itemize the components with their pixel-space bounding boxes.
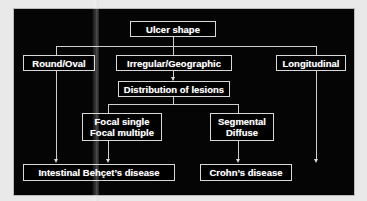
node-irregular-geographic-line-0: Irregular/Geographic [127, 58, 221, 69]
edge-to-irregular [173, 46, 174, 55]
flowchart-panel: Ulcer shape Round/Oval Irregular/Geograp… [14, 9, 354, 195]
arrowhead-segmental-to-crohn [236, 159, 240, 163]
node-ulcer-shape[interactable]: Ulcer shape [130, 21, 216, 37]
arrowhead-longitudinal-to-crohn [314, 159, 318, 163]
diagram-screenshot: Ulcer shape Round/Oval Irregular/Geograp… [0, 0, 367, 201]
node-focal[interactable]: Focal single Focal multiple [82, 113, 162, 141]
node-irregular-geographic[interactable]: Irregular/Geographic [116, 55, 232, 71]
node-intestinal-behcets-disease[interactable]: Intestinal Behçet’s disease [23, 164, 175, 181]
node-distribution-of-lesions-line-0: Distribution of lesions [124, 84, 224, 95]
arrowhead-focal-to-behcet [106, 159, 110, 163]
node-segmental-line-0: Segmental [218, 116, 266, 127]
edge-level2-bar [108, 104, 238, 105]
node-crohns-disease-line-0: Crohn’s disease [209, 167, 282, 178]
node-round-oval-line-0: Round/Oval [32, 58, 85, 69]
arrowhead-round-oval-to-behcet [54, 159, 58, 163]
node-segmental-line-1: Diffuse [226, 127, 258, 138]
node-round-oval[interactable]: Round/Oval [23, 55, 95, 71]
node-crohns-disease[interactable]: Crohn’s disease [200, 164, 292, 181]
node-segmental[interactable]: Segmental Diffuse [210, 113, 274, 141]
edge-to-round-oval [56, 46, 57, 55]
edge-to-longitudinal [316, 46, 317, 55]
node-ulcer-shape-line-0: Ulcer shape [146, 24, 200, 35]
node-focal-line-1: Focal multiple [90, 127, 154, 138]
node-focal-line-0: Focal single [95, 116, 150, 127]
node-distribution-of-lesions[interactable]: Distribution of lesions [118, 81, 230, 97]
node-longitudinal[interactable]: Longitudinal [276, 55, 346, 71]
edge-ulcer-stem [173, 37, 174, 46]
node-intestinal-behcets-disease-line-0: Intestinal Behçet’s disease [38, 167, 159, 178]
node-longitudinal-line-0: Longitudinal [283, 58, 340, 69]
edge-level1-bar [56, 46, 316, 47]
